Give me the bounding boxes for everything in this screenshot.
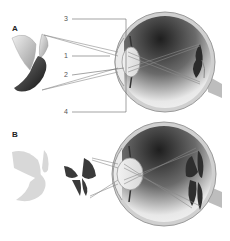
- label-3: 3: [64, 15, 68, 22]
- object-rays-a: [42, 35, 118, 90]
- label-4: 4: [64, 108, 68, 115]
- diagram-artwork: [0, 0, 230, 241]
- panel-label-b: B: [12, 130, 18, 139]
- eye-b: [112, 122, 222, 226]
- panel-a: [12, 12, 222, 112]
- eye-a: [115, 12, 222, 112]
- panel-b: [12, 122, 222, 226]
- dove-object-a: [12, 34, 48, 92]
- blurred-dove-object-b: [12, 150, 49, 201]
- lens-a: [122, 47, 140, 77]
- label-1: 1: [64, 52, 68, 59]
- panel-label-a: A: [12, 24, 18, 33]
- eye-focus-diagram: A B 3 1 2 4: [0, 0, 230, 241]
- label-2: 2: [64, 71, 68, 78]
- butterfly-object-b: [64, 158, 96, 196]
